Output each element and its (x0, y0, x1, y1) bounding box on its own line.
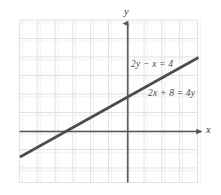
y-axis-label: y (124, 6, 129, 17)
equation-label-2: 2x + 8 = 4y (148, 88, 195, 98)
equation-label-1: 2y − x = 4 (131, 59, 173, 69)
graph-figure: y x 2y − x = 4 2x + 8 = 4y (0, 0, 221, 195)
x-axis-label: x (206, 124, 211, 135)
